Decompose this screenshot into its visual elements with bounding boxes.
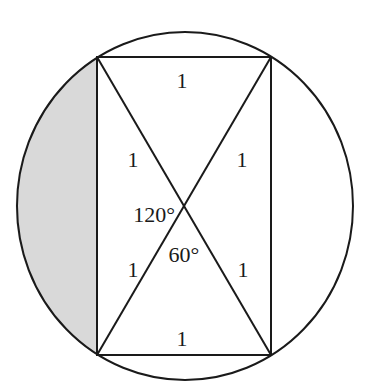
- shaded-segment: [16, 57, 97, 355]
- label-lower-right-diagonal: 1: [238, 257, 249, 282]
- label-upper-right-diagonal: 1: [237, 147, 248, 172]
- geometry-figure: 1 1 1 1 1 1 120° 60°: [0, 0, 372, 390]
- diagram-canvas: 1 1 1 1 1 1 120° 60°: [0, 0, 372, 390]
- label-upper-left-diagonal: 1: [128, 147, 139, 172]
- label-bottom-side: 1: [177, 326, 188, 351]
- label-angle-60: 60°: [169, 242, 200, 267]
- label-lower-left-diagonal: 1: [128, 257, 139, 282]
- label-top-side: 1: [177, 68, 188, 93]
- label-angle-120: 120°: [133, 202, 175, 227]
